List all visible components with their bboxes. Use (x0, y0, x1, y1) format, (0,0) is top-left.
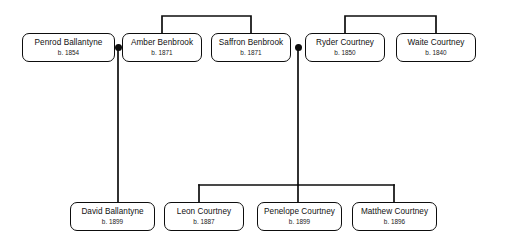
person-node-david-ballantyne[interactable]: David Ballantyne b. 1899 (70, 202, 155, 231)
union-dot-penrod-amber (115, 44, 122, 51)
person-birth: b. 1887 (193, 218, 214, 225)
person-node-waite-courtney[interactable]: Waite Courtney b. 1840 (396, 33, 476, 62)
sibling-bar-benbrook (162, 16, 251, 33)
person-name: Leon Courtney (177, 207, 231, 216)
person-name: Penelope Courtney (264, 207, 335, 216)
family-tree-diagram: Penrod Ballantyne b. 1854 Amber Benbrook… (0, 0, 505, 246)
person-birth: b. 1871 (151, 49, 172, 56)
person-node-saffron-benbrook[interactable]: Saffron Benbrook b. 1871 (211, 33, 291, 62)
sibling-bar-courtney (345, 16, 436, 33)
person-node-matthew-courtney[interactable]: Matthew Courtney b. 1896 (352, 202, 437, 231)
person-birth: b. 1871 (240, 49, 261, 56)
person-birth: b. 1840 (425, 49, 446, 56)
person-node-ryder-courtney[interactable]: Ryder Courtney b. 1850 (305, 33, 385, 62)
person-birth: b. 1899 (289, 218, 310, 225)
person-name: Waite Courtney (408, 38, 465, 47)
person-birth: b. 1899 (102, 218, 123, 225)
person-name: Saffron Benbrook (219, 38, 283, 47)
person-name: Ryder Courtney (316, 38, 374, 47)
person-name: David Ballantyne (81, 207, 143, 216)
person-birth: b. 1850 (334, 49, 355, 56)
person-birth: b. 1854 (58, 49, 79, 56)
person-node-amber-benbrook[interactable]: Amber Benbrook b. 1871 (122, 33, 202, 62)
union-dot-saffron-ryder (295, 44, 302, 51)
person-name: Matthew Courtney (361, 207, 428, 216)
person-node-penrod-ballantyne[interactable]: Penrod Ballantyne b. 1854 (22, 33, 115, 62)
person-node-leon-courtney[interactable]: Leon Courtney b. 1887 (164, 202, 244, 231)
person-name: Penrod Ballantyne (35, 38, 103, 47)
person-birth: b. 1896 (384, 218, 405, 225)
person-node-penelope-courtney[interactable]: Penelope Courtney b. 1899 (257, 202, 342, 231)
person-name: Amber Benbrook (131, 38, 193, 47)
